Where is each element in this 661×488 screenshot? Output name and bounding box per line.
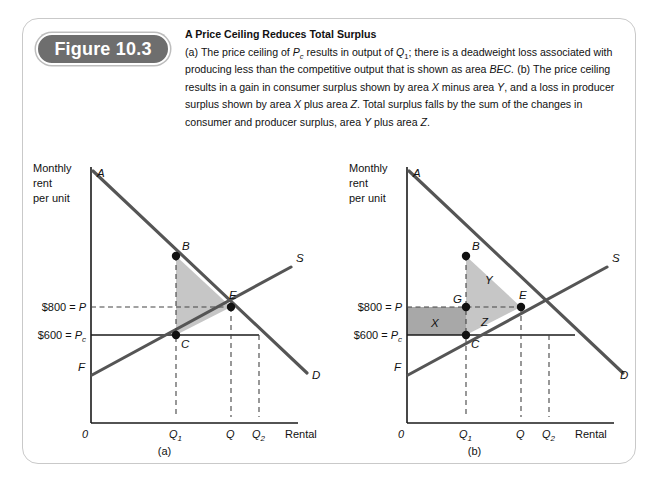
x-tick-label-q1-b: Q1 (459, 428, 472, 441)
point-label-b-a: B (182, 240, 190, 252)
point-b-b (462, 252, 470, 260)
x-tick-label-q1-a: Q1 (169, 428, 182, 441)
area-label-x-b: X (430, 317, 440, 329)
area-label-z-b: Z (480, 316, 489, 328)
y-axis-title-b-line2: rent (349, 177, 368, 189)
figure-caption-text: (a) The price ceiling of Pc results in o… (185, 44, 625, 131)
panel-b-caption: (b) (321, 445, 628, 457)
price-tick-label-p-b: $800 = P (358, 301, 403, 313)
demand-curve-b (409, 171, 623, 373)
point-label-c-b: C (471, 338, 480, 350)
point-label-g-b: G (453, 293, 462, 305)
chart-b-svg: A B G E C F X Y Z S D Monthly rent per u… (313, 141, 630, 441)
y-axis-title-a-line1: Monthly (33, 162, 72, 174)
point-label-b-b: B (472, 240, 480, 252)
y-axis-title-b-line3: per unit (349, 192, 386, 204)
area-label-y-b: Y (485, 274, 494, 286)
origin-label-b: 0 (398, 428, 405, 440)
point-label-f-b: F (394, 361, 402, 373)
chart-panel-b: A B G E C F X Y Z S D Monthly rent per u… (313, 141, 620, 465)
point-e-b (517, 303, 525, 311)
point-g-b (462, 303, 470, 311)
x-tick-label-q-a: Q (226, 428, 235, 440)
demand-curve-a (93, 171, 307, 373)
y-axis-title-a-line2: rent (33, 177, 52, 189)
region-area-y-b (466, 256, 521, 307)
point-label-a-b: A (412, 167, 421, 179)
price-tick-label-pc-b: $600 = Pc (354, 329, 402, 344)
chart-a-svg: A B E C F S D Monthly rent per unit $800… (23, 141, 330, 441)
point-label-a-a: A (96, 167, 105, 179)
panel-a-caption: (a) (11, 445, 318, 457)
point-e-a (227, 303, 235, 311)
point-label-e-a: E (229, 289, 237, 301)
x-tick-label-q-b: Q (516, 428, 525, 440)
region-area-z-b (466, 307, 521, 335)
point-label-e-b: E (519, 289, 527, 301)
price-tick-label-pc-a: $600 = Pc (38, 329, 86, 344)
figure-card: Figure 10.3 A Price Ceiling Reduces Tota… (22, 18, 636, 464)
x-tick-label-q2-b: Q2 (542, 428, 556, 441)
origin-label-a: 0 (82, 428, 89, 440)
x-axis-title-b-line1: Rental (575, 428, 607, 440)
point-c-a (172, 331, 180, 339)
curve-label-d-b: D (620, 369, 628, 381)
point-b-a (172, 252, 180, 260)
chart-panel-a: A B E C F S D Monthly rent per unit $800… (23, 141, 330, 465)
point-label-f-a: F (78, 361, 86, 373)
figure-header: Figure 10.3 A Price Ceiling Reduces Tota… (23, 19, 637, 141)
figure-title: A Price Ceiling Reduces Total Surplus (185, 27, 625, 42)
curve-label-s-a: S (296, 252, 304, 264)
price-tick-label-p-a: $800 = P (42, 301, 87, 313)
y-axis-title-b-line1: Monthly (349, 162, 388, 174)
y-axis-title-a-line3: per unit (33, 192, 70, 204)
point-c-b (462, 331, 470, 339)
figure-number-badge: Figure 10.3 (36, 33, 170, 65)
point-label-c-a: C (181, 338, 190, 350)
curve-label-s-b: S (612, 252, 620, 264)
x-tick-label-q2-a: Q2 (252, 428, 266, 441)
figure-caption-block: A Price Ceiling Reduces Total Surplus (a… (185, 27, 625, 131)
